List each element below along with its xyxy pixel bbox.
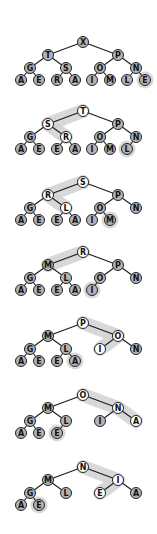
node-label: P (115, 120, 121, 129)
node-label: E (54, 357, 59, 366)
node-label: I (99, 417, 102, 426)
node-label: A (133, 489, 140, 498)
tree-node: L (61, 203, 72, 214)
node-label: G (27, 133, 34, 142)
tree-step-7: NMIGLEAAE (16, 462, 142, 514)
node-label: I (99, 345, 102, 354)
tree-node: G (25, 273, 36, 284)
node-label: A (18, 76, 25, 85)
node-label: I (91, 286, 94, 295)
diagram-canvas: XTPGSONAERAIMLETSPGRONAEEAIMLSRPGLONAEEA… (0, 0, 157, 534)
node-label: A (72, 76, 79, 85)
tree-node: R (52, 75, 63, 86)
tree-node: L (61, 416, 72, 427)
node-label: R (63, 133, 69, 142)
node-label: M (44, 332, 52, 341)
node-label: O (97, 64, 104, 73)
node-label: A (18, 357, 25, 366)
tree-node: I (87, 75, 98, 86)
node-label: N (115, 404, 122, 413)
node-label: G (27, 489, 34, 498)
tree-node: N (131, 344, 142, 355)
node-label: G (27, 64, 34, 73)
node-label: I (117, 476, 120, 485)
tree-node: G (25, 132, 36, 143)
node-label: G (27, 204, 34, 213)
tree-node: A (131, 488, 142, 499)
tree-node: G (25, 63, 36, 74)
tree-node: L (122, 75, 133, 86)
node-label: L (124, 145, 129, 154)
node-label: E (36, 145, 41, 154)
node-label: L (63, 345, 68, 354)
node-label: G (27, 345, 34, 354)
tree-node: I (95, 344, 106, 355)
node-label: L (124, 76, 129, 85)
node-label: P (115, 261, 121, 270)
tree-step-2: TSPGRONAEEAIML (16, 106, 142, 158)
tree-node: A (70, 75, 81, 86)
tree-node: A (70, 356, 81, 367)
node-label: M (44, 404, 52, 413)
node-label: E (36, 429, 41, 438)
tree-node: S (61, 63, 72, 74)
node-label: N (133, 133, 140, 142)
tree-step-5: PMOGLINAEEA (16, 318, 142, 370)
tree-node: L (61, 344, 72, 355)
node-label: A (133, 417, 140, 426)
tree-node: E (52, 356, 63, 367)
node-label: G (27, 274, 34, 283)
node-label: L (63, 417, 68, 426)
node-label: M (106, 216, 114, 225)
tree-node: I (95, 416, 106, 427)
tree-node: A (16, 285, 27, 296)
tree-node: N (131, 132, 142, 143)
node-label: A (18, 286, 25, 295)
tree-node: M (43, 475, 54, 486)
node-label: L (63, 489, 68, 498)
node-label: M (44, 261, 52, 270)
node-label: A (18, 216, 25, 225)
tree-node: A (131, 416, 142, 427)
node-label: M (44, 476, 52, 485)
node-label: E (54, 429, 59, 438)
tree-node: G (25, 416, 36, 427)
node-label: M (106, 145, 114, 154)
node-label: N (133, 345, 140, 354)
tree-node: X (78, 37, 89, 48)
tree-node: I (87, 285, 98, 296)
node-label: I (91, 76, 94, 85)
tree-step-6: OMNGLIAAEE (16, 390, 142, 442)
tree-node: L (122, 144, 133, 155)
node-label: E (36, 286, 41, 295)
tree-node: A (70, 144, 81, 155)
tree-node: G (25, 203, 36, 214)
tree-node: O (78, 390, 89, 401)
tree-node: R (43, 190, 54, 201)
node-label: N (133, 274, 140, 283)
tree-step-4: RMPGLONAEEAI (16, 247, 142, 299)
node-label: N (133, 64, 140, 73)
node-label: E (142, 76, 147, 85)
tree-node: E (52, 215, 63, 226)
tree-node: E (52, 144, 63, 155)
node-label: T (80, 107, 86, 116)
tree-node: P (113, 190, 124, 201)
node-label: A (18, 429, 25, 438)
tree-node: O (113, 331, 124, 342)
tree-node: A (16, 215, 27, 226)
tree-node: N (78, 462, 89, 473)
tree-node: E (140, 75, 151, 86)
node-label: E (36, 357, 41, 366)
tree-node: A (70, 285, 81, 296)
tree-node: L (61, 273, 72, 284)
tree-node: M (105, 75, 116, 86)
node-label: O (97, 274, 104, 283)
tree-node: E (95, 488, 106, 499)
node-label: I (91, 145, 94, 154)
tree-node: I (87, 215, 98, 226)
tree-node: E (34, 215, 45, 226)
tree-node: M (43, 403, 54, 414)
tree-node: G (25, 488, 36, 499)
tree-node: M (105, 215, 116, 226)
